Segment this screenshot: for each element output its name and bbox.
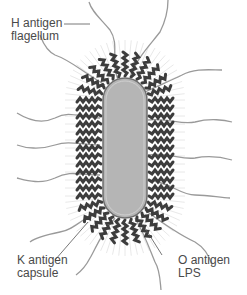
k-antigen-label: K antigen capsule [17, 254, 68, 280]
bacterium-diagram: H antigen flagellum K antigen capsule O … [0, 0, 247, 295]
bacterium-illustration [0, 0, 247, 295]
cell-body [103, 78, 147, 218]
o-antigen-label: O antigen LPS [178, 254, 230, 280]
h-antigen-subtitle: flagellum [11, 30, 62, 43]
o-antigen-subtitle: LPS [178, 267, 230, 280]
k-antigen-subtitle: capsule [17, 267, 68, 280]
h-antigen-label: H antigen flagellum [11, 17, 62, 43]
